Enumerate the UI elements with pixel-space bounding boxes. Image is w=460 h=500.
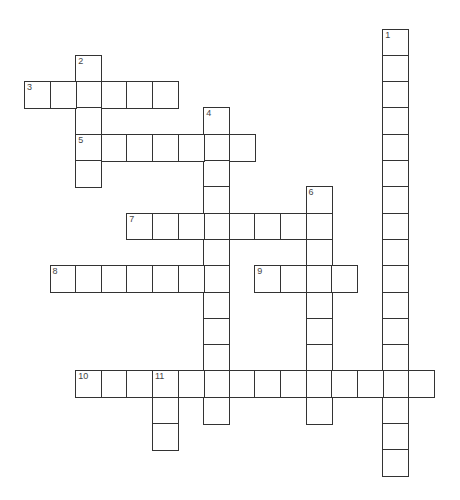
clue-number: 4 — [206, 109, 211, 118]
crossword-cell[interactable] — [382, 213, 409, 241]
crossword-cell[interactable]: 6 — [306, 186, 333, 214]
crossword-cell[interactable] — [229, 134, 256, 162]
crossword-cell[interactable] — [306, 292, 333, 320]
crossword-cell[interactable] — [152, 134, 179, 162]
crossword-cell[interactable] — [152, 423, 179, 451]
clue-number: 8 — [53, 267, 58, 276]
crossword-cell[interactable] — [382, 370, 409, 398]
clue-number: 1 — [385, 31, 390, 40]
crossword-cell[interactable] — [126, 81, 153, 109]
crossword-cell[interactable] — [382, 344, 409, 372]
crossword-cell[interactable] — [306, 318, 333, 346]
clue-number: 5 — [78, 136, 83, 145]
crossword-cell[interactable] — [357, 370, 384, 398]
clue-number: 9 — [257, 267, 262, 276]
crossword-cell[interactable] — [50, 81, 77, 109]
crossword-cell[interactable] — [178, 213, 205, 241]
crossword-cell[interactable] — [203, 213, 230, 241]
crossword-cell[interactable] — [382, 239, 409, 267]
crossword-cell[interactable] — [203, 239, 230, 267]
crossword-cell[interactable] — [254, 213, 281, 241]
crossword-cell[interactable] — [408, 370, 435, 398]
crossword-cell[interactable] — [152, 265, 179, 293]
crossword-cell[interactable] — [75, 107, 102, 135]
crossword-cell[interactable] — [178, 265, 205, 293]
crossword-cell[interactable]: 9 — [254, 265, 281, 293]
crossword-cell[interactable] — [203, 344, 230, 372]
crossword-cell[interactable]: 11 — [152, 370, 179, 398]
crossword-cell[interactable]: 10 — [75, 370, 102, 398]
clue-number: 2 — [78, 57, 83, 66]
crossword-cell[interactable] — [306, 239, 333, 267]
crossword-cell[interactable] — [382, 107, 409, 135]
crossword-cell[interactable] — [203, 160, 230, 188]
crossword-cell[interactable] — [126, 370, 153, 398]
crossword-cell[interactable]: 5 — [75, 134, 102, 162]
crossword-cell[interactable] — [126, 134, 153, 162]
crossword-cell[interactable] — [229, 370, 256, 398]
crossword-cell[interactable] — [382, 292, 409, 320]
crossword-cell[interactable] — [306, 213, 333, 241]
crossword-cell[interactable] — [280, 370, 307, 398]
crossword-cell[interactable] — [75, 81, 102, 109]
crossword-cell[interactable] — [254, 370, 281, 398]
crossword-grid: 1253467891011 — [0, 0, 460, 500]
crossword-cell[interactable] — [203, 134, 230, 162]
clue-number: 10 — [78, 372, 88, 381]
crossword-cell[interactable] — [280, 265, 307, 293]
crossword-cell[interactable] — [382, 186, 409, 214]
crossword-cell[interactable]: 3 — [24, 81, 51, 109]
crossword-cell[interactable] — [152, 81, 179, 109]
crossword-cell[interactable] — [382, 55, 409, 83]
crossword-cell[interactable]: 2 — [75, 55, 102, 83]
crossword-cell[interactable] — [101, 370, 128, 398]
crossword-cell[interactable] — [203, 318, 230, 346]
crossword-cell[interactable] — [152, 397, 179, 425]
crossword-cell[interactable] — [306, 397, 333, 425]
crossword-cell[interactable]: 7 — [126, 213, 153, 241]
crossword-cell[interactable] — [178, 370, 205, 398]
crossword-cell[interactable] — [382, 265, 409, 293]
crossword-cell[interactable] — [382, 423, 409, 451]
crossword-cell[interactable]: 1 — [382, 29, 409, 57]
crossword-cell[interactable] — [382, 81, 409, 109]
clue-number: 11 — [155, 372, 164, 381]
crossword-cell[interactable] — [382, 160, 409, 188]
crossword-cell[interactable] — [382, 134, 409, 162]
crossword-cell[interactable] — [203, 265, 230, 293]
crossword-cell[interactable] — [75, 265, 102, 293]
crossword-cell[interactable] — [331, 370, 358, 398]
crossword-cell[interactable] — [178, 134, 205, 162]
crossword-cell[interactable] — [101, 265, 128, 293]
crossword-cell[interactable]: 4 — [203, 107, 230, 135]
crossword-cell[interactable] — [75, 160, 102, 188]
crossword-cell[interactable] — [203, 186, 230, 214]
crossword-cell[interactable] — [203, 292, 230, 320]
crossword-cell[interactable] — [203, 370, 230, 398]
crossword-cell[interactable] — [306, 265, 333, 293]
crossword-cell[interactable] — [382, 318, 409, 346]
crossword-cell[interactable] — [382, 449, 409, 477]
crossword-cell[interactable] — [126, 265, 153, 293]
crossword-cell[interactable] — [203, 397, 230, 425]
crossword-cell[interactable] — [306, 370, 333, 398]
crossword-cell[interactable] — [229, 213, 256, 241]
crossword-cell[interactable] — [382, 397, 409, 425]
crossword-cell[interactable] — [331, 265, 358, 293]
clue-number: 7 — [129, 215, 134, 224]
clue-number: 3 — [27, 83, 32, 92]
crossword-cell[interactable] — [306, 344, 333, 372]
crossword-cell[interactable] — [101, 81, 128, 109]
clue-number: 6 — [309, 188, 314, 197]
crossword-cell[interactable]: 8 — [50, 265, 77, 293]
crossword-cell[interactable] — [101, 134, 128, 162]
crossword-cell[interactable] — [152, 213, 179, 241]
crossword-cell[interactable] — [280, 213, 307, 241]
